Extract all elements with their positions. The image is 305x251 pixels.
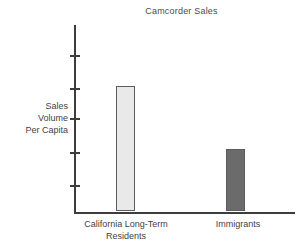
bar-immigrants [226, 149, 245, 211]
y-axis-tick [70, 152, 80, 154]
y-axis-tick [70, 55, 80, 57]
chart-title: Camcorder Sales [0, 6, 305, 16]
x-axis-label-line-1: Immigrants [188, 218, 288, 230]
x-axis-label-california-long-term-residents: California Long-Term Residents [56, 218, 196, 242]
x-axis-line [74, 212, 295, 214]
x-axis-label-line-2: Residents [56, 230, 196, 242]
x-axis-label-line-1: California Long-Term [56, 218, 196, 230]
bar-california-long-term-residents [116, 86, 135, 211]
y-axis-tick [70, 118, 80, 120]
y-axis-title: Sales Volume Per Capita [0, 100, 68, 136]
y-axis-title-line-1: Sales [0, 100, 68, 112]
y-axis-title-line-3: Per Capita [0, 124, 68, 136]
camcorder-sales-bar-chart: Camcorder Sales Sales Volume Per Capita … [0, 0, 305, 251]
y-axis-tick [70, 185, 80, 187]
y-axis-tick [70, 88, 80, 90]
plot-area [74, 25, 295, 213]
x-axis-label-immigrants: Immigrants [188, 218, 288, 230]
y-axis-title-line-2: Volume [0, 112, 68, 124]
